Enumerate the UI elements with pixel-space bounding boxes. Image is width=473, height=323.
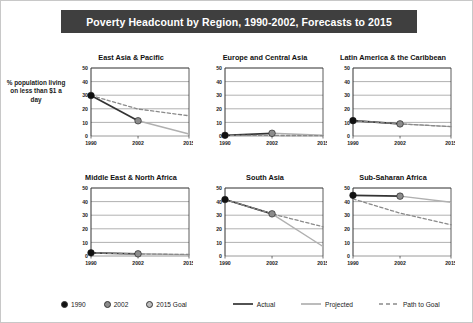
legend-label: 1990 (71, 301, 86, 308)
svg-text:2015: 2015 (183, 140, 193, 146)
svg-text:50: 50 (216, 65, 222, 71)
panel-title: Sub-Saharan Africa (331, 173, 455, 182)
svg-text:30: 30 (344, 92, 350, 98)
data-point-marker (135, 117, 142, 124)
data-point-marker (350, 192, 357, 199)
legend-dot-icon (104, 301, 111, 308)
svg-text:50: 50 (82, 185, 88, 191)
series-line (353, 195, 400, 196)
svg-text:10: 10 (216, 240, 222, 246)
plot-area: 01020304050199020022015 (331, 184, 455, 268)
svg-text:0: 0 (347, 253, 350, 259)
svg-text:1990: 1990 (347, 260, 359, 266)
series-line (272, 133, 323, 135)
svg-text:40: 40 (82, 199, 88, 205)
svg-text:2015: 2015 (183, 260, 193, 266)
svg-text:2002: 2002 (132, 140, 144, 146)
svg-text:2002: 2002 (266, 260, 278, 266)
legend-label: 2015 Goal (156, 301, 186, 308)
svg-text:50: 50 (344, 185, 350, 191)
panel-title: Latin America & the Caribbean (331, 53, 455, 62)
svg-text:10: 10 (82, 240, 88, 246)
svg-text:40: 40 (344, 79, 350, 85)
svg-text:2002: 2002 (394, 260, 406, 266)
legend-item: Actual (233, 301, 275, 308)
chart-figure: Poverty Headcount by Region, 1990-2002, … (0, 0, 473, 323)
svg-text:2015: 2015 (317, 140, 327, 146)
svg-text:10: 10 (82, 120, 88, 126)
svg-text:1990: 1990 (85, 140, 97, 146)
svg-text:40: 40 (344, 199, 350, 205)
plot-area: 01020304050199020022015 (203, 184, 327, 268)
series-line (272, 214, 323, 247)
data-point-marker (269, 211, 276, 218)
plot-area: 01020304050199020022015 (69, 184, 193, 268)
panel-title: East Asia & Pacific (69, 53, 193, 62)
svg-text:30: 30 (216, 92, 222, 98)
svg-text:1990: 1990 (85, 260, 97, 266)
svg-text:2002: 2002 (266, 140, 278, 146)
svg-text:20: 20 (344, 226, 350, 232)
legend-label: Projected (325, 301, 353, 308)
panel-title: Europe and Central Asia (203, 53, 327, 62)
svg-text:10: 10 (344, 240, 350, 246)
svg-text:10: 10 (344, 120, 350, 126)
series-line (91, 95, 138, 120)
data-point-marker (397, 193, 404, 200)
series-line (353, 199, 451, 225)
svg-text:50: 50 (344, 65, 350, 71)
legend-dot-icon (61, 301, 68, 308)
page-title: Poverty Headcount by Region, 1990-2002, … (86, 16, 392, 28)
svg-text:20: 20 (216, 106, 222, 112)
data-point-marker (350, 117, 357, 124)
plot-area: 01020304050199020022015 (69, 64, 193, 148)
svg-text:30: 30 (82, 92, 88, 98)
data-point-marker (269, 130, 276, 137)
svg-text:30: 30 (216, 212, 222, 218)
svg-text:2015: 2015 (445, 140, 455, 146)
data-point-marker (88, 250, 95, 257)
svg-text:50: 50 (216, 185, 222, 191)
svg-text:30: 30 (82, 212, 88, 218)
panel-title: Middle East & North Africa (69, 173, 193, 182)
legend-item: 1990 (61, 301, 86, 308)
legend-solid-line-icon (301, 301, 321, 307)
svg-text:2015: 2015 (317, 260, 327, 266)
svg-text:1990: 1990 (219, 140, 231, 146)
legend-label: Path to Goal (403, 301, 440, 308)
data-point-marker (222, 196, 229, 203)
svg-text:20: 20 (82, 106, 88, 112)
svg-text:0: 0 (347, 133, 350, 139)
panel-title: South Asia (203, 173, 327, 182)
legend-solid-line-icon (233, 301, 253, 307)
svg-text:40: 40 (216, 199, 222, 205)
svg-text:2015: 2015 (445, 260, 455, 266)
data-point-marker (135, 251, 142, 258)
svg-text:0: 0 (219, 253, 222, 259)
legend-dot-icon (146, 301, 153, 308)
legend-label: 2002 (114, 301, 129, 308)
svg-text:0: 0 (85, 133, 88, 139)
chart-title-bar: Poverty Headcount by Region, 1990-2002, … (61, 10, 417, 33)
svg-text:40: 40 (216, 79, 222, 85)
legend-item: 2015 Goal (146, 301, 186, 308)
svg-text:2002: 2002 (132, 260, 144, 266)
svg-text:20: 20 (216, 226, 222, 232)
plot-area: 01020304050199020022015 (331, 64, 455, 148)
svg-text:50: 50 (82, 65, 88, 71)
chart-legend: 199020022015 GoalActualProjectedPath to … (61, 297, 451, 311)
svg-text:1990: 1990 (347, 140, 359, 146)
y-axis-caption: % population living on less than $1 a da… (5, 79, 67, 104)
svg-text:1990: 1990 (219, 260, 231, 266)
plot-area: 01020304050199020022015 (203, 64, 327, 148)
legend-item: Path to Goal (379, 301, 440, 308)
svg-text:20: 20 (82, 226, 88, 232)
series-line (91, 95, 189, 115)
svg-text:20: 20 (344, 106, 350, 112)
legend-dashed-line-icon (379, 301, 399, 307)
svg-text:40: 40 (82, 79, 88, 85)
legend-item: 2002 (104, 301, 129, 308)
data-point-marker (397, 121, 404, 128)
data-point-marker (222, 132, 229, 139)
data-point-marker (88, 92, 95, 99)
